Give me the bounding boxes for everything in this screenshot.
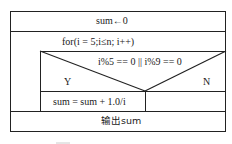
yes-label: Y	[64, 77, 71, 87]
loop-header: for(i = 5;i≤n; i++)	[62, 37, 134, 47]
condition-text: i%5 == 0 || i%9 == 0	[98, 57, 182, 67]
init-statement: sum←0	[96, 16, 128, 26]
output-statement: 输出sum	[101, 116, 141, 126]
yes-action: sum = sum + 1.0/i	[53, 97, 126, 107]
no-label: N	[203, 77, 210, 87]
